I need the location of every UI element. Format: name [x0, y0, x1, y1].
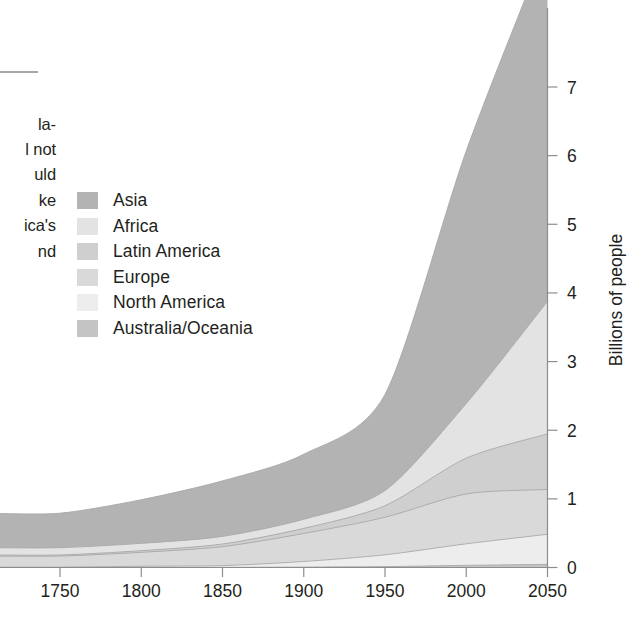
y-axis-ticks: 01234567: [548, 78, 578, 579]
legend-item-australia-oceania: Australia/Oceania: [77, 316, 253, 342]
y-axis-title: Billions of people: [606, 234, 626, 366]
legend-item-latin-america: Latin America: [77, 239, 253, 265]
chart-legend: Asia Africa Latin America Europe North A…: [77, 188, 253, 341]
y-tick-label: 0: [567, 558, 577, 578]
legend-label: North America: [113, 294, 225, 312]
legend-item-asia: Asia: [77, 188, 253, 214]
y-tick-label: 7: [567, 78, 577, 98]
x-tick-label: 1750: [41, 581, 80, 601]
x-axis-ticks: 1750180018501900195020002050: [41, 568, 568, 602]
y-tick-label: 5: [567, 215, 577, 235]
legend-label: Asia: [113, 192, 147, 210]
y-tick-label: 1: [567, 489, 577, 509]
x-tick-label: 1950: [366, 581, 405, 601]
x-tick-label: 2050: [528, 581, 567, 601]
y-tick-label: 6: [567, 146, 577, 166]
legend-swatch-icon: [77, 320, 98, 337]
y-tick-label: 3: [567, 352, 577, 372]
legend-swatch-icon: [77, 218, 98, 235]
x-tick-label: 1800: [122, 581, 161, 601]
legend-swatch-icon: [77, 243, 98, 260]
legend-label: Latin America: [113, 243, 220, 261]
page-root: la- l not uld ke ica's nd 01234567 17501…: [0, 0, 642, 629]
legend-item-africa: Africa: [77, 214, 253, 240]
y-tick-label: 4: [567, 283, 577, 303]
legend-label: Australia/Oceania: [113, 320, 253, 338]
legend-label: Europe: [113, 269, 170, 287]
x-tick-label: 1900: [284, 581, 323, 601]
legend-swatch-icon: [77, 192, 98, 209]
legend-label: Africa: [113, 218, 158, 236]
y-tick-label: 2: [567, 421, 577, 441]
x-tick-label: 1850: [203, 581, 242, 601]
legend-item-north-america: North America: [77, 290, 253, 316]
x-tick-label: 2000: [447, 581, 486, 601]
legend-swatch-icon: [77, 269, 98, 286]
legend-item-europe: Europe: [77, 265, 253, 291]
legend-swatch-icon: [77, 294, 98, 311]
